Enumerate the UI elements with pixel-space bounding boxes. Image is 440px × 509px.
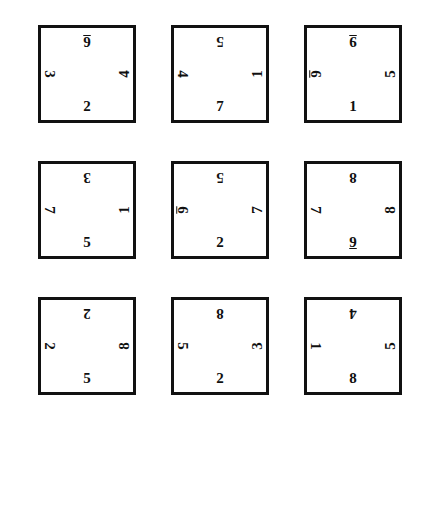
square-number-left: 6 [175, 206, 190, 214]
square-number-top: 3 [83, 170, 91, 185]
number-square: 5417 [171, 25, 269, 123]
square-number-top: 8 [349, 170, 357, 185]
square-number-bottom: 2 [216, 235, 224, 250]
square-number-top: 9 [349, 34, 357, 49]
square-number-bottom: 8 [349, 371, 357, 386]
square-number-bottom: 2 [216, 371, 224, 386]
square-number-right: 3 [250, 342, 265, 350]
square-number-left: 6 [308, 70, 323, 78]
square-number-left: 7 [308, 206, 323, 214]
square-number-bottom: 1 [349, 99, 357, 114]
square-number-left: 7 [42, 206, 57, 214]
square-number-right: 7 [250, 206, 265, 214]
square-number-bottom: 5 [83, 235, 91, 250]
square-number-right: 1 [250, 70, 265, 78]
square-number-left: 3 [42, 70, 57, 78]
square-number-bottom: 7 [216, 99, 224, 114]
square-number-top: 6 [83, 34, 91, 49]
square-number-top: 2 [83, 306, 91, 321]
number-square: 8532 [171, 297, 269, 395]
square-number-left: 5 [175, 342, 190, 350]
square-number-top: 4 [349, 306, 357, 321]
number-square: 6342 [38, 25, 136, 123]
square-number-right: 1 [117, 206, 132, 214]
square-number-right: 8 [383, 206, 398, 214]
square-number-right: 4 [117, 70, 132, 78]
number-square: 3715 [38, 161, 136, 259]
number-square: 5672 [171, 161, 269, 259]
worksheet-page: 634254179651371556728789228585324158 [0, 0, 440, 509]
square-number-right: 8 [117, 342, 132, 350]
square-number-bottom: 5 [83, 371, 91, 386]
square-number-top: 5 [216, 34, 224, 49]
square-number-bottom: 2 [83, 99, 91, 114]
square-number-bottom: 9 [349, 235, 357, 250]
square-number-left: 2 [42, 342, 57, 350]
square-number-top: 8 [216, 306, 224, 321]
squares-grid: 634254179651371556728789228585324158 [38, 25, 402, 395]
square-number-right: 5 [383, 342, 398, 350]
number-square: 4158 [304, 297, 402, 395]
number-square: 9651 [304, 25, 402, 123]
square-number-left: 1 [308, 342, 323, 350]
square-number-right: 5 [383, 70, 398, 78]
square-number-left: 4 [175, 70, 190, 78]
square-number-top: 5 [216, 170, 224, 185]
number-square: 2285 [38, 297, 136, 395]
number-square: 8789 [304, 161, 402, 259]
